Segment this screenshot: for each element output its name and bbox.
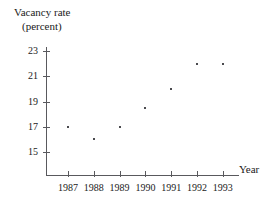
data-point [196, 63, 198, 65]
x-tick-mark [68, 171, 69, 177]
data-point [119, 126, 121, 128]
x-axis-title: Year [239, 163, 259, 176]
y-tick-mark [43, 76, 50, 77]
y-tick-mark [43, 51, 50, 52]
x-axis-line [46, 175, 239, 176]
y-axis-line [46, 47, 47, 176]
data-point [67, 126, 69, 128]
x-tick-mark [223, 171, 224, 177]
data-point [144, 107, 146, 109]
y-axis-title-line-2: (percent) [22, 20, 62, 33]
x-tick-mark [171, 171, 172, 177]
x-tick-mark [94, 171, 95, 177]
y-tick-mark [43, 127, 50, 128]
x-tick-mark [145, 171, 146, 177]
vacancy-rate-scatter-chart: Vacancy rate (percent) Year 2321191715 1… [0, 0, 275, 201]
y-tick-label: 19 [20, 97, 38, 107]
y-tick-label: 23 [20, 46, 38, 56]
y-tick-mark [43, 102, 50, 103]
data-point [170, 88, 172, 90]
data-point [93, 138, 95, 140]
x-tick-label: 1993 [208, 183, 238, 193]
y-tick-label: 21 [20, 71, 38, 81]
y-tick-mark [43, 152, 50, 153]
y-axis-title-line-1: Vacancy rate [14, 6, 71, 19]
y-tick-label: 17 [20, 122, 38, 132]
y-tick-label: 15 [20, 147, 38, 157]
x-tick-mark [197, 171, 198, 177]
data-point [222, 63, 224, 65]
x-tick-mark [120, 171, 121, 177]
